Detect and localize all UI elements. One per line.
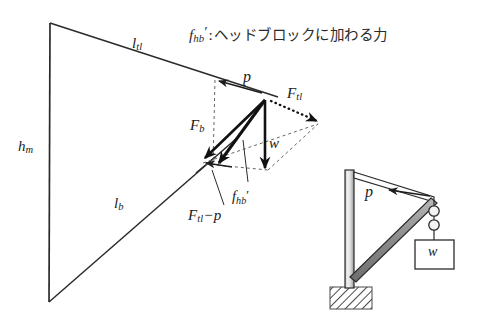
- label-f-tl-minus-p-op: −: [203, 207, 213, 223]
- label-f-tl-minus-p-base: F: [188, 207, 197, 223]
- crane-label-p: p: [365, 184, 373, 200]
- label-p-base: p: [243, 68, 251, 85]
- crane-label-w: w: [428, 245, 437, 259]
- vector-ftl-minus-p: [206, 163, 232, 167]
- vector-ftl: [271, 101, 317, 121]
- label-w-base: w: [269, 135, 279, 151]
- caption-symbol-sub: hb: [193, 32, 204, 44]
- figure-caption: fhb′:ヘッドブロックに加わる力: [189, 26, 388, 44]
- label-l-tl: ltl: [132, 36, 142, 53]
- vector-p: [219, 81, 262, 93]
- label-l-tl-sub: tl: [136, 41, 142, 52]
- force-diagram-figure: fhb′:ヘッドブロックに加わる力 ltl hm lb p Ftl Fb w f…: [0, 0, 485, 327]
- label-f-tl-sub: tl: [296, 91, 302, 102]
- label-f-b: Fb: [190, 118, 205, 135]
- label-h-m-base: h: [18, 138, 26, 154]
- label-w: w: [269, 136, 279, 151]
- triangle-mast-line: [49, 23, 50, 302]
- label-f-hb-sub: hb: [236, 195, 246, 206]
- label-f-tl: Ftl: [287, 86, 302, 103]
- label-h-m: hm: [18, 139, 33, 156]
- crane-foundation: [330, 287, 372, 309]
- pulley-sheave-upper: [429, 206, 439, 216]
- crane-mast: [345, 170, 354, 288]
- label-f-tl-minus-p-operand: p: [214, 207, 222, 223]
- label-f-hb-prime-mark: ′: [246, 187, 249, 202]
- label-f-hb-prime: fhb′: [232, 188, 249, 206]
- pulley-sheave-lower: [429, 220, 439, 230]
- caption-text: ヘッドブロックに加わる力: [214, 27, 388, 43]
- label-f-tl-minus-p: Ftl−p: [188, 208, 221, 225]
- vector-fhb-prime: [219, 100, 265, 163]
- label-f-b-sub: b: [199, 123, 204, 134]
- label-p: p: [243, 69, 251, 85]
- diagram-canvas: [0, 0, 485, 327]
- leader-fhb: [243, 140, 248, 182]
- force-triangle: [49, 23, 278, 302]
- leader-ftl-minus-p: [212, 170, 224, 205]
- label-l-b: lb: [114, 196, 124, 213]
- construction-vertical: [213, 80, 215, 165]
- crane-pictogram: [330, 170, 454, 309]
- label-l-b-sub: b: [118, 201, 123, 212]
- label-f-b-base: F: [190, 117, 199, 133]
- label-h-m-sub: m: [26, 144, 34, 155]
- label-f-tl-base: F: [287, 85, 296, 101]
